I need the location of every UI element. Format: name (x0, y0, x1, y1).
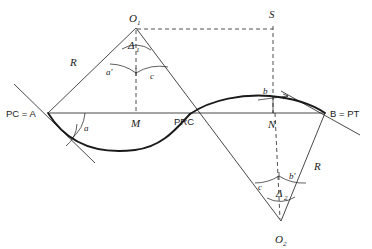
label-point-o2: O (275, 233, 283, 245)
label-point-pc-a: PC = A (6, 108, 36, 119)
label-point-n: N (267, 118, 276, 130)
diagram-canvas: PC = A B = PT PRC M N S O 1 O 2 R R Δ 1 … (0, 0, 372, 249)
label-point-s: S (269, 8, 275, 20)
angle-arc-a-prime (110, 64, 136, 73)
angle-arc-a-outer (71, 113, 85, 139)
radius-line-o1-through-prc-to-o2 (136, 28, 281, 221)
curve-arc-first (48, 113, 190, 151)
label-angle-c-bottom: c (258, 182, 262, 192)
label-angle-delta1: Δ (127, 39, 134, 51)
curve-arc-second (190, 96, 325, 114)
reverse-curve-diagram: PC = A B = PT PRC M N S O 1 O 2 R R Δ 1 … (0, 0, 372, 249)
label-radius-right: R (313, 160, 321, 172)
label-point-m: M (130, 117, 141, 129)
label-point-b-pt: B = PT (330, 108, 359, 119)
label-angle-delta2: Δ (275, 187, 282, 199)
label-angle-delta1-subscript: 1 (136, 46, 140, 54)
label-radius-left: R (69, 56, 77, 68)
label-angle-b-prime: b' (289, 171, 297, 181)
angle-arcs-at-b (258, 94, 288, 113)
label-angle-c-top: c (150, 71, 154, 81)
label-point-o2-subscript: 2 (283, 240, 287, 248)
label-angle-a: a (84, 123, 89, 133)
label-angle-delta2-subscript: 2 (284, 194, 288, 202)
label-angle-b: b (263, 86, 268, 96)
label-point-o1: O (129, 12, 137, 24)
label-point-prc: PRC (174, 116, 194, 127)
label-angle-a-prime: a' (106, 67, 114, 77)
dashed-line-n-to-o2 (275, 113, 280, 219)
label-point-o1-subscript: 1 (137, 19, 141, 27)
radius-legs-o1 (48, 28, 281, 221)
radius-line-o1-to-a (48, 28, 136, 113)
